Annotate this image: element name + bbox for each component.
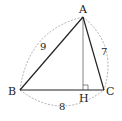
vertex-label-a: A — [78, 3, 88, 16]
vertex-label-h: H — [79, 92, 89, 105]
length-label-ab: 9 — [40, 41, 46, 52]
triangle-diagram: A B C H 9 7 8 — [0, 0, 122, 121]
vertex-label-b: B — [8, 85, 16, 98]
side-ab — [20, 17, 83, 90]
length-label-bc: 8 — [59, 101, 65, 112]
length-label-ac: 7 — [101, 46, 107, 57]
right-angle-mark — [83, 85, 88, 90]
vertex-label-c: C — [106, 85, 114, 98]
